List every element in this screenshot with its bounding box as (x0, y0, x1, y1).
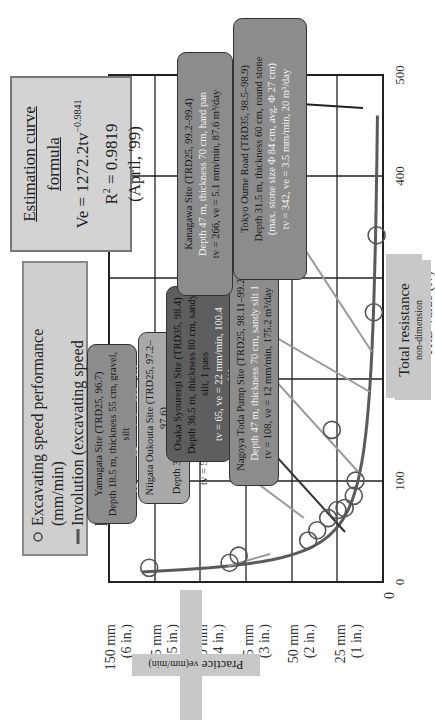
formula-r2: R2 = 0.9819 (95, 82, 124, 246)
svg-text:(2 in.): (2 in.) (302, 624, 318, 659)
svg-text:500: 500 (392, 65, 407, 85)
site-yamagata-box: Yamagata Site (TRD25, 96.7) Depth 18.5 m… (87, 344, 137, 524)
site-kanagawa-box: Kanagawa Site (TRD25, 99.2–99.4) Depth 4… (177, 52, 233, 296)
formula-box: Estimation curve formula Ve = 1272.2tv−0… (10, 76, 132, 252)
total-resistance-box: Total resistance non-dimension (395, 260, 431, 400)
svg-text:50 mm: 50 mm (286, 624, 301, 663)
svg-text:0: 0 (382, 592, 397, 599)
legend-item-markers: Excavating speed performance (mm/min) (28, 269, 68, 548)
formula-equation: Ve = 1272.2tv−0.9841 (66, 82, 95, 246)
formula-title: Estimation curve formula (18, 82, 66, 246)
circle-marker-icon (28, 526, 46, 548)
site-osaka-box: Osaka Syourenji Site (TRD35, 98.4) Depth… (166, 286, 232, 462)
line-icon (68, 526, 86, 548)
site-tokyo-box: Tokyo Oume Road (TRD35, 98.5–98.9) Depth… (233, 18, 307, 280)
svg-text:(1 in.): (1 in.) (349, 624, 365, 659)
formula-date: (April, '99) (123, 82, 147, 246)
legend: Excavating speed performance (mm/min) In… (22, 261, 88, 556)
svg-text:0: 0 (392, 579, 407, 586)
practice-ve-box: Practice ve(mm/min) (132, 654, 260, 676)
site-nagoya-box: Nagoya Toda Pump Site (TRD25, 98.11–99.2… (229, 260, 279, 486)
svg-text:150 mm: 150 mm (103, 624, 118, 670)
svg-text:100: 100 (392, 471, 407, 491)
svg-text:400: 400 (392, 166, 407, 186)
svg-text:25 mm: 25 mm (333, 624, 348, 663)
